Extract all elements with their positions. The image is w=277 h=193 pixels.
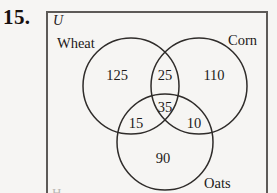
venn-circles — [0, 0, 277, 193]
set-label-corn: Corn — [228, 33, 257, 48]
cut-off-bottom-label: H — [52, 186, 61, 193]
region-value-all-three: 35 — [158, 100, 173, 115]
venn-diagram-figure: 15. U Wheat Corn Oats 125 25 110 15 35 1… — [0, 0, 277, 193]
set-label-oats: Oats — [204, 176, 231, 191]
region-value-corn-and-oats: 10 — [187, 116, 202, 131]
region-value-wheat-only: 125 — [106, 68, 128, 83]
region-value-corn-only: 110 — [203, 68, 224, 83]
region-value-wheat-and-oats: 15 — [129, 116, 144, 131]
region-value-wheat-and-corn: 25 — [158, 68, 173, 83]
set-label-wheat: Wheat — [57, 36, 95, 51]
region-value-oats-only: 90 — [156, 151, 171, 166]
